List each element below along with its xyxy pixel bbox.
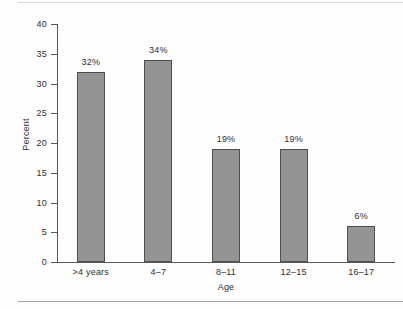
y-axis-tick	[51, 24, 57, 25]
bar	[212, 149, 240, 262]
y-axis-title: Percent	[22, 105, 31, 165]
y-axis-tick-label: 40	[25, 20, 47, 29]
bar-value-label: 34%	[133, 46, 183, 55]
bar	[280, 149, 308, 262]
y-axis-line	[57, 24, 58, 263]
bar-value-label: 6%	[336, 212, 386, 221]
y-axis-tick	[51, 262, 57, 263]
bar-value-label: 32%	[66, 58, 116, 67]
x-axis-line	[57, 262, 395, 263]
y-axis-tick	[51, 113, 57, 114]
y-axis-tick-label: 10	[25, 199, 47, 208]
y-axis-tick-label: 0	[25, 258, 47, 267]
x-axis-category-label: >4 years	[57, 267, 125, 277]
bar	[144, 60, 172, 262]
x-axis-category-label: 12–15	[260, 267, 328, 277]
y-axis-tick	[51, 203, 57, 204]
y-axis-tick-label: 30	[25, 80, 47, 89]
bar	[347, 226, 375, 262]
x-axis-category-label: 4–7	[124, 267, 192, 277]
y-axis-tick	[51, 84, 57, 85]
y-axis-tick	[51, 54, 57, 55]
bar-value-label: 19%	[269, 135, 319, 144]
x-axis-category-label: 8–11	[192, 267, 260, 277]
y-axis-tick	[51, 173, 57, 174]
page-bottom-rule	[18, 301, 403, 302]
bar-chart-plot-area: 0510152025303540 Percent 32%>4 years34%4…	[0, 0, 403, 309]
x-axis-title: Age	[57, 283, 395, 292]
figure-canvas: 0510152025303540 Percent 32%>4 years34%4…	[0, 0, 403, 309]
y-axis-tick	[51, 232, 57, 233]
bar	[77, 72, 105, 262]
x-axis-category-label: 16–17	[327, 267, 395, 277]
y-axis-tick-label: 5	[25, 228, 47, 237]
bar-value-label: 19%	[201, 135, 251, 144]
y-axis-tick	[51, 143, 57, 144]
y-axis-tick-label: 35	[25, 50, 47, 59]
y-axis-tick-label: 15	[25, 169, 47, 178]
